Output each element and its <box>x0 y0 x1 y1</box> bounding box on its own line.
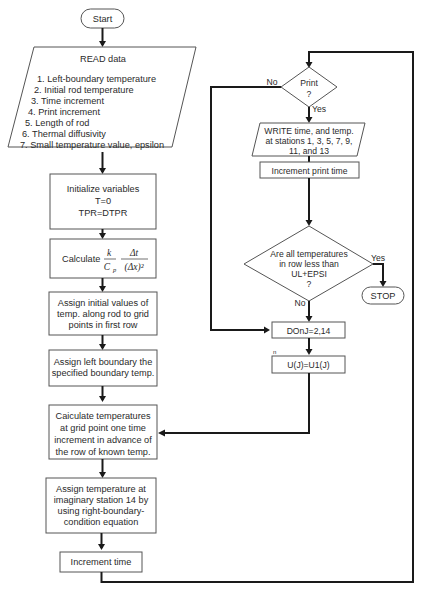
write-line-3: 11, and 13 <box>289 146 329 156</box>
read-title: READ data <box>80 54 127 64</box>
assign-station-line-3: using right-boundary- <box>58 506 145 516</box>
start-label: Start <box>93 14 113 24</box>
read-item-6: 6. Thermal diffusivity <box>22 129 106 139</box>
init-line-2: T=0 <box>95 196 111 206</box>
assign-station-box: Assign temperature at imaginary station … <box>46 478 156 533</box>
write-line-2: at stations 1, 3, 5, 7, 9, <box>266 136 353 146</box>
assign-left-line-1: Assign left boundary the <box>54 357 153 367</box>
read-item-7: 7. Small temperature value, epsilon <box>20 140 164 150</box>
write-line-1: WRITE time, and temp. <box>264 126 353 136</box>
assign-u-box: U(J)=U1(J) <box>272 356 345 373</box>
temps-no-label: No <box>295 298 306 308</box>
temps-line-4: ? <box>307 279 312 289</box>
print-no-label: No <box>267 77 278 87</box>
stop-label: STOP <box>371 291 396 301</box>
formula-cp: C <box>104 262 111 272</box>
print-label: Print <box>300 78 318 88</box>
read-item-3: 3. Time increment <box>31 96 104 106</box>
read-item-5: 5. Length of rod <box>25 118 89 128</box>
increment-print-label: Increment print time <box>272 166 348 176</box>
calc-temps-line-1: Caiculate temperatures <box>56 411 151 421</box>
init-line-3: TPR=DTPR <box>79 208 128 218</box>
calculate-temperatures-box: Caiculate temperatures at grid point one… <box>49 405 157 459</box>
read-item-1: 1. Left-boundary temperature <box>37 74 156 84</box>
init-line-1: Initialize variables <box>67 184 140 194</box>
temps-line-3: UL+EPSI <box>291 269 327 279</box>
formula-dt: Δt <box>129 248 139 258</box>
increment-print-time-box: Increment print time <box>260 162 359 178</box>
print-yes-label: Yes <box>312 104 326 114</box>
assign-left-line-2: specified boundary temp. <box>52 368 155 378</box>
initialize-box: Initialize variables T=0 TPR=DTPR <box>50 174 156 229</box>
assign-initial-box: Assign initial values of temp. along rod… <box>49 292 157 335</box>
stop-terminal: STOP <box>362 287 404 304</box>
calc-temps-line-3: increment in advance of <box>54 435 152 445</box>
do-loop-marker: n <box>273 349 276 355</box>
formula-dx2: (Δx)² <box>125 262 144 273</box>
assign-station-line-2: imaginary station 14 by <box>54 495 149 505</box>
read-data-io: READ data 1. Left-boundary temperature 2… <box>8 47 196 150</box>
assign-initial-line-3: points in first row <box>69 320 138 330</box>
assign-station-line-1: Assign temperature at <box>56 484 146 494</box>
assign-left-boundary-box: Assign left boundary the specified bound… <box>49 350 157 386</box>
calculate-box: Calculate k C p Δt (Δx)² <box>50 239 156 278</box>
calc-temps-line-4: the row of known temp. <box>56 447 151 457</box>
flowchart: Start READ data 1. Left-boundary tempera… <box>0 0 424 591</box>
temps-line-1: Are all temperatures <box>270 249 347 259</box>
assign-u-label: U(J)=U1(J) <box>287 360 329 370</box>
temps-yes-label: Yes <box>371 253 385 263</box>
calc-temps-line-2: at grid point one time <box>60 423 146 433</box>
read-item-4: 4. Print increment <box>28 107 100 117</box>
temps-line-2: in row less than <box>279 259 339 269</box>
temperatures-decision: Are all temperatures in row less than UL… <box>244 226 373 301</box>
print-qmark: ? <box>307 89 312 99</box>
print-decision: Print ? <box>281 67 337 107</box>
assign-station-line-4: condition equation <box>64 517 139 527</box>
increment-time-box: Increment time <box>60 552 142 572</box>
write-io: WRITE time, and temp. at stations 1, 3, … <box>252 123 365 156</box>
do-loop-box: DOnJ=2,14 <box>272 322 345 338</box>
assign-initial-line-2: temp. along rod to grid <box>57 309 149 319</box>
assign-initial-line-1: Assign initial values of <box>58 298 149 308</box>
do-loop-label: DOnJ=2,14 <box>287 326 331 336</box>
calculate-label: Calculate <box>62 254 100 264</box>
start-terminal: Start <box>81 9 124 28</box>
increment-time-label: Increment time <box>71 557 132 567</box>
read-item-2: 2. Initial rod temperature <box>34 85 134 95</box>
